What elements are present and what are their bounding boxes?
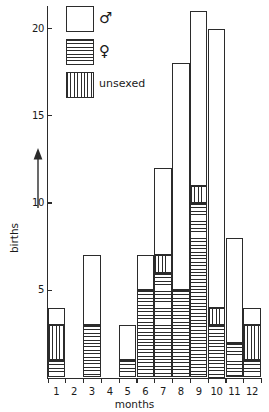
bar-segment-female-month-8 bbox=[172, 290, 190, 377]
births-per-month-histogram: ♂ ♀ unsexed births months 5101520 123456… bbox=[0, 0, 269, 412]
bar-month-10 bbox=[208, 29, 226, 378]
y-tick-label-10: 10 bbox=[22, 198, 44, 208]
y-tick-15 bbox=[47, 115, 52, 116]
bar-segment-unsexed-month-1 bbox=[48, 325, 66, 360]
bar-segment-female-month-1 bbox=[48, 360, 66, 377]
bar-segment-male-month-12 bbox=[243, 308, 261, 325]
bar-segment-male-month-3 bbox=[83, 255, 101, 325]
bar-month-6 bbox=[137, 255, 155, 377]
x-tick-9 bbox=[208, 378, 209, 383]
bar-segment-male-month-10 bbox=[208, 29, 226, 308]
bar-segment-female-month-7 bbox=[154, 273, 172, 378]
legend-label-unsexed: unsexed bbox=[99, 74, 145, 94]
x-tick-1 bbox=[65, 378, 66, 383]
bar-segment-male-month-8 bbox=[172, 63, 190, 290]
y-axis-title: births bbox=[8, 208, 20, 268]
x-tick-7 bbox=[172, 378, 173, 383]
bar-segment-male-month-7 bbox=[154, 168, 172, 255]
x-tick-10 bbox=[225, 378, 226, 383]
bar-month-12 bbox=[243, 308, 261, 378]
bar-month-3 bbox=[83, 255, 101, 377]
x-tick-12 bbox=[261, 378, 262, 383]
x-tick-origin bbox=[48, 378, 49, 383]
bar-segment-male-month-1 bbox=[48, 308, 66, 325]
y-tick-label-15: 15 bbox=[22, 111, 44, 121]
x-tick-11 bbox=[243, 378, 244, 383]
x-tick-8 bbox=[190, 378, 191, 383]
bar-segment-female-month-5 bbox=[119, 360, 137, 377]
legend-label-female: ♀ bbox=[99, 41, 110, 61]
bar-segment-unsexed-month-12 bbox=[243, 325, 261, 360]
legend-swatch-female-icon bbox=[66, 39, 94, 65]
bar-segment-male-month-11 bbox=[226, 238, 244, 343]
legend-swatch-male-icon bbox=[66, 6, 94, 32]
x-tick-2 bbox=[83, 378, 84, 383]
bar-month-1 bbox=[48, 308, 66, 378]
x-tick-4 bbox=[119, 378, 120, 383]
x-axis-title: months bbox=[0, 398, 269, 410]
x-tick-5 bbox=[136, 378, 137, 383]
x-tick-3 bbox=[101, 378, 102, 383]
bar-month-7 bbox=[154, 168, 172, 377]
y-tick-20 bbox=[47, 28, 52, 29]
bar-month-11 bbox=[226, 238, 244, 378]
bar-segment-female-month-3 bbox=[83, 325, 101, 377]
bar-segment-female-month-12 bbox=[243, 360, 261, 377]
y-tick-label-5: 5 bbox=[22, 285, 44, 295]
bar-segment-female-month-6 bbox=[137, 290, 155, 377]
bar-month-8 bbox=[172, 63, 190, 377]
bar-segment-unsexed-month-9 bbox=[190, 186, 208, 203]
legend-label-male: ♂ bbox=[99, 8, 112, 28]
x-tick-6 bbox=[154, 378, 155, 383]
y-tick-5 bbox=[47, 290, 52, 291]
bar-segment-male-month-6 bbox=[137, 255, 155, 290]
bar-segment-unsexed-month-10 bbox=[208, 308, 226, 325]
bar-segment-female-month-11 bbox=[226, 343, 244, 378]
bar-month-5 bbox=[119, 325, 137, 377]
x-tick-label-12: 12 bbox=[242, 386, 262, 397]
bar-month-9 bbox=[190, 11, 208, 377]
legend-swatch-unsexed-icon bbox=[66, 72, 94, 98]
bar-segment-male-month-9 bbox=[190, 11, 208, 186]
y-tick-label-20: 20 bbox=[22, 24, 44, 34]
bar-segment-male-month-5 bbox=[119, 325, 137, 360]
bar-segment-female-month-10 bbox=[208, 325, 226, 377]
bar-segment-unsexed-month-7 bbox=[154, 255, 172, 272]
bar-segment-female-month-9 bbox=[190, 203, 208, 378]
y-tick-10 bbox=[47, 202, 52, 203]
